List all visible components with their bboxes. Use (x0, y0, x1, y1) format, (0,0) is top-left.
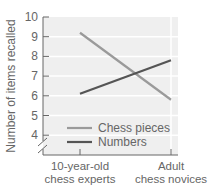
y-tick-label: 10 (25, 10, 39, 24)
legend-label: Numbers (98, 135, 147, 149)
x-category-label: Adult (158, 160, 185, 172)
y-tick-label: 9 (31, 30, 38, 44)
y-tick-label: 4 (31, 128, 38, 142)
x-category-label: 10-year-old (51, 160, 109, 172)
y-tick-label: 7 (31, 69, 38, 83)
x-category-label: chess experts (45, 173, 116, 185)
legend-label: Chess pieces (98, 121, 170, 135)
y-tick-label: 8 (31, 49, 38, 63)
y-tick-label: 6 (31, 89, 38, 103)
line-chart: 45678910 10-year-oldchess expertsAdultch… (0, 0, 212, 190)
x-category-label: chess novices (135, 173, 207, 185)
y-tick-label: 5 (31, 109, 38, 123)
y-axis-title: Number of items recalled (4, 19, 18, 152)
